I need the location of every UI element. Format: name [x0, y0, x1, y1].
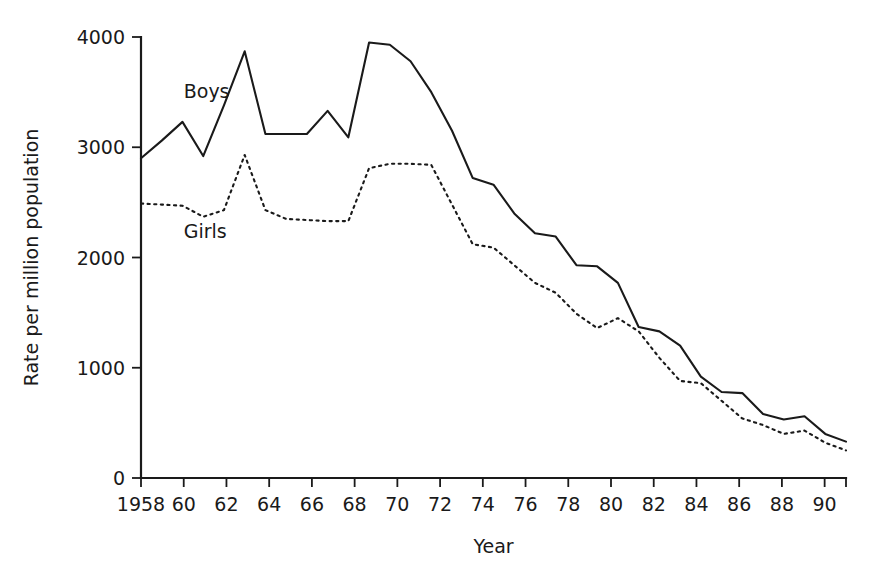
y-tick-label-group: 01000200030004000 [77, 26, 125, 489]
line-chart: 01000200030004000 1958606264666870727476… [0, 0, 875, 587]
x-tick-label: 68 [343, 493, 367, 515]
y-axis-title: Rate per million population [20, 129, 42, 387]
x-tick-label: 86 [727, 493, 751, 515]
series-line-girls [141, 155, 846, 450]
x-tick-label: 82 [642, 493, 666, 515]
y-tick-label: 4000 [77, 26, 125, 48]
y-tick-label: 2000 [77, 247, 125, 269]
x-axis: 195860626466687072747678808284868890 [117, 478, 846, 515]
x-tick-label: 80 [599, 493, 623, 515]
y-tick-label: 0 [113, 467, 125, 489]
series-group [141, 43, 846, 451]
x-tick-label: 62 [214, 493, 238, 515]
x-axis-title: Year [472, 535, 513, 557]
x-tick-label: 74 [471, 493, 495, 515]
series-label-boys: Boys [184, 80, 230, 102]
x-tick-label: 70 [385, 493, 409, 515]
x-tick-label: 64 [257, 493, 281, 515]
x-tick-label: 90 [813, 493, 837, 515]
x-tick-group [141, 478, 846, 487]
y-tick-group [132, 37, 141, 478]
x-tick-label: 60 [172, 493, 196, 515]
x-tick-label: 66 [300, 493, 324, 515]
y-axis: 01000200030004000 [77, 26, 141, 489]
x-tick-label: 1958 [117, 493, 165, 515]
x-tick-label: 72 [428, 493, 452, 515]
x-tick-label: 88 [770, 493, 794, 515]
y-tick-label: 3000 [77, 136, 125, 158]
x-tick-label: 84 [684, 493, 708, 515]
chart-container: 01000200030004000 1958606264666870727476… [0, 0, 875, 587]
series-line-boys [141, 43, 846, 442]
series-label-girls: Girls [184, 220, 227, 242]
y-tick-label: 1000 [77, 357, 125, 379]
x-tick-label: 76 [513, 493, 537, 515]
x-tick-label-group: 195860626466687072747678808284868890 [117, 493, 837, 515]
x-tick-label: 78 [556, 493, 580, 515]
